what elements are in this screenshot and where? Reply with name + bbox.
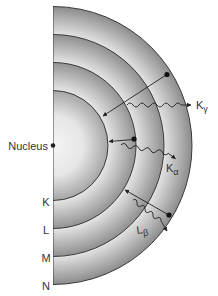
electron-dot (131, 136, 136, 141)
electron-dot (164, 72, 169, 77)
shell-label-n: N (42, 280, 50, 292)
shell-label-m: M (41, 252, 50, 264)
nucleus-dot (51, 143, 56, 148)
k-gamma-label: Kγ (196, 99, 208, 114)
shell-label-l: L (43, 224, 49, 236)
shell-label-k: K (42, 196, 50, 208)
electron-dot (166, 212, 171, 217)
shell-diagram: Nucleus K L M N Kγ Kα Lβ (0, 0, 218, 296)
nucleus-label: Nucleus (8, 140, 48, 152)
